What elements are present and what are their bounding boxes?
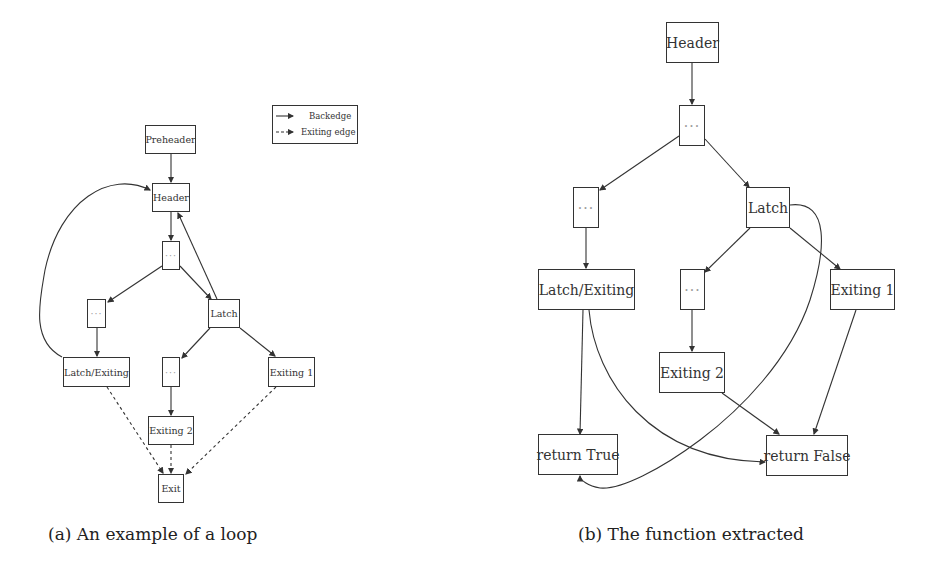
node-a-exit: Exit: [158, 474, 184, 503]
legend-exiting: Exiting edge: [295, 127, 355, 137]
node-b-block-left: ···: [573, 187, 599, 228]
node-b-block-mid: ···: [680, 269, 705, 310]
node-a-exiting2: Exiting 2: [148, 416, 194, 445]
legend-backedge-label: Backedge: [309, 111, 351, 121]
node-a-preheader: Preheader: [145, 125, 196, 154]
caption-b: (b) The function extracted: [578, 524, 804, 544]
legend: Backedge Exiting edge: [272, 105, 358, 144]
node-b-return-true: return True: [538, 434, 618, 475]
node-a-header: Header: [152, 183, 190, 212]
node-b-header: Header: [666, 22, 719, 63]
legend-exiting-label: Exiting edge: [301, 127, 355, 137]
node-b-latch: Latch: [746, 187, 790, 228]
node-a-exiting1: Exiting 1: [268, 357, 315, 387]
caption-a: (a) An example of a loop: [48, 524, 257, 544]
node-a-latch-exiting: Latch/Exiting: [63, 357, 130, 387]
node-b-exiting2: Exiting 2: [659, 352, 725, 393]
node-a-block-mid: ···: [162, 357, 180, 387]
node-a-block-left: ···: [87, 299, 106, 328]
node-b-return-false: return False: [766, 435, 848, 476]
node-b-block1: ···: [679, 105, 705, 146]
legend-backedge: Backedge: [303, 111, 351, 121]
edges-layer: [0, 0, 937, 572]
node-a-latch: Latch: [208, 299, 240, 328]
node-b-latch-exiting: Latch/Exiting: [538, 269, 635, 310]
node-b-exiting1: Exiting 1: [830, 269, 895, 310]
node-a-block1: ···: [162, 241, 180, 270]
